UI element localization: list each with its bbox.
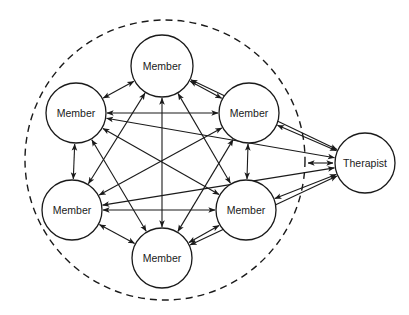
edge-m_ul-m_ll <box>73 144 74 179</box>
edge-m_lr-therapist <box>275 174 336 198</box>
edge-m_top-m_ul <box>103 81 134 98</box>
node-label: Member <box>143 60 182 72</box>
edges-layer <box>73 80 337 245</box>
node-label: Member <box>53 204 92 216</box>
nodes-layer: MemberMemberMemberMemberMemberMemberTher… <box>42 35 395 288</box>
member-node: Member <box>131 35 193 97</box>
member-node: Member <box>216 180 276 240</box>
node-label: Member <box>230 107 269 119</box>
node-label: Therapist <box>343 157 387 169</box>
node-label: Member <box>227 204 266 216</box>
edge-m_top-m_ur <box>190 81 222 98</box>
node-label: Member <box>143 252 182 264</box>
member-node: Member <box>42 180 102 240</box>
member-node: Member <box>132 228 192 288</box>
therapist-node: Therapist <box>335 133 395 193</box>
edge-m_ur-m_lr <box>247 144 248 179</box>
edge-m_ur-therapist <box>278 125 337 150</box>
node-label: Member <box>57 107 96 119</box>
edge-m_ll-m_bot <box>99 225 134 244</box>
member-node: Member <box>46 83 106 143</box>
member-node: Member <box>219 83 279 143</box>
group-therapy-diagram: MemberMemberMemberMemberMemberMemberTher… <box>0 0 409 315</box>
